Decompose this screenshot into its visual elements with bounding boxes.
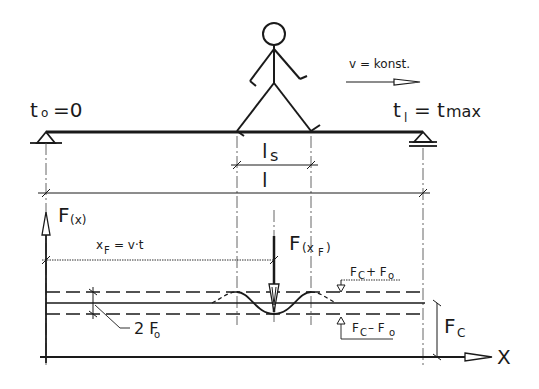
svg-text:o: o <box>41 106 48 120</box>
velocity-arrow-icon <box>346 79 420 85</box>
svg-text:C: C <box>360 327 367 338</box>
right-support-icon <box>409 132 437 146</box>
force-plot: F (x) X x F = v·t F <box>40 203 511 369</box>
pedestrian-icon <box>237 23 320 136</box>
svg-text:F: F <box>352 321 359 335</box>
svg-text:=0: =0 <box>53 98 82 122</box>
svg-text:l: l <box>262 139 268 163</box>
svg-text:o: o <box>154 329 160 340</box>
left-support-icon <box>30 132 62 143</box>
svg-text:(x): (x) <box>70 213 86 227</box>
force-at-position-label: F (x F ) <box>289 231 331 258</box>
svg-text:C: C <box>358 270 365 281</box>
svg-text:s: s <box>270 146 278 165</box>
svg-text:F: F <box>444 314 456 338</box>
svg-text:): ) <box>326 241 331 255</box>
beam-walking-diagram: t o =0 t l = t max v = konst. <box>0 0 539 389</box>
svg-text:+ F: + F <box>366 265 387 279</box>
start-time-label: t o =0 <box>30 98 82 122</box>
beam-group: t o =0 t l = t max v = konst. <box>30 23 481 146</box>
svg-text:C: C <box>457 326 465 340</box>
velocity-label: v = konst. <box>349 57 410 71</box>
svg-text:– F: – F <box>368 321 385 335</box>
svg-text:F: F <box>104 245 110 256</box>
step-length-dimension: l s <box>231 139 318 169</box>
svg-text:F: F <box>58 203 70 227</box>
end-time-label: t l = t max <box>393 98 481 125</box>
svg-text:(x: (x <box>302 241 314 255</box>
force-arrow-icon <box>269 236 279 312</box>
svg-text:= v·t: = v·t <box>114 238 144 252</box>
constant-force-dimension: F C <box>433 300 465 360</box>
svg-text:t: t <box>30 98 38 122</box>
upper-bound-callout: F C + F o <box>337 265 401 292</box>
svg-text:F: F <box>289 231 301 255</box>
svg-text:o: o <box>388 270 394 281</box>
svg-text:max: max <box>446 102 481 121</box>
svg-text:F: F <box>350 265 357 279</box>
svg-text:F: F <box>318 247 324 258</box>
svg-text:x: x <box>96 238 103 252</box>
svg-text:l: l <box>262 168 268 192</box>
force-axis-arrow-icon <box>42 212 50 235</box>
x-axis-arrow-icon <box>465 353 492 361</box>
x-axis-label: X <box>497 345 511 369</box>
svg-text:o: o <box>389 327 395 338</box>
svg-text:l: l <box>404 111 407 125</box>
lower-bound-callout: F C – F o <box>337 317 395 339</box>
position-dimension: x F = v·t <box>42 238 278 264</box>
force-axis-label: F (x) <box>58 203 86 227</box>
svg-text:t: t <box>393 98 401 122</box>
svg-text:= t: = t <box>414 98 445 122</box>
span-length-dimension: l <box>38 168 430 197</box>
